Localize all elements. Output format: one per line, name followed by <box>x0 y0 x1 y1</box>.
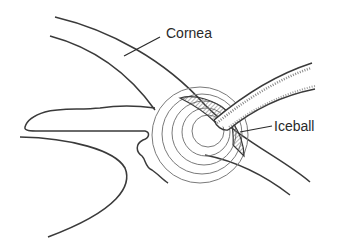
cornea-label: Cornea <box>166 26 212 40</box>
iceball-leader-line <box>240 126 272 132</box>
iceball-label: Iceball <box>274 119 314 133</box>
lens-curve <box>20 137 127 237</box>
iris-shape <box>25 106 168 183</box>
sclera-inner-curve-lower <box>205 155 290 195</box>
diagram-canvas: Cornea Iceball <box>0 0 346 244</box>
cornea-inner-curve-upper <box>50 36 155 110</box>
